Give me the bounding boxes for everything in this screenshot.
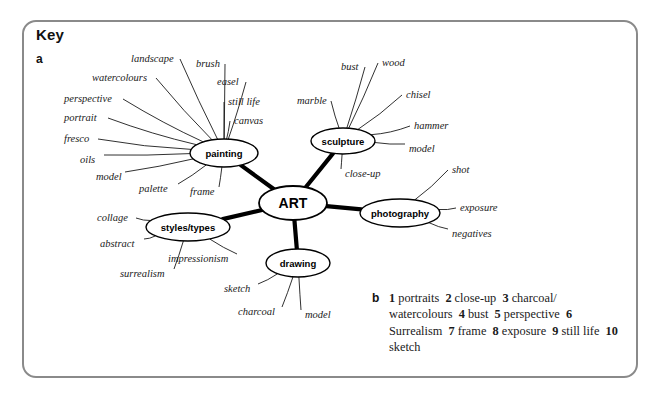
- answer-text: sketch: [389, 340, 420, 354]
- leaf-label: oils: [80, 154, 95, 165]
- leaf-label: exposure: [460, 202, 498, 213]
- leaf-label: shot: [452, 164, 471, 175]
- leaf-label: wood: [382, 57, 406, 68]
- branch-node-label: photography: [371, 208, 430, 219]
- leaf-label: watercolours: [92, 72, 147, 83]
- answer-number: 8: [493, 324, 502, 338]
- leaf-label: fresco: [64, 133, 89, 144]
- leaf-label: negatives: [452, 228, 492, 239]
- leaf-label: brush: [196, 58, 220, 69]
- answer-text: frame: [458, 324, 493, 338]
- answer-number: 10: [606, 324, 618, 338]
- branch-node-label: painting: [206, 148, 243, 159]
- answer-number: 4: [459, 307, 468, 321]
- leaf-label: model: [305, 309, 331, 320]
- answer-text: exposure: [502, 324, 553, 338]
- answer-number: 1: [389, 291, 398, 305]
- leaf-label: chisel: [406, 89, 431, 100]
- answer-text: portraits: [398, 291, 445, 305]
- branch-node-label: styles/types: [161, 222, 215, 233]
- leaf-label: palette: [138, 183, 168, 194]
- answer-text: Surrealism: [389, 324, 448, 338]
- answer-key-list: 1 portraits 2 close-up 3 charcoal/ water…: [389, 290, 622, 355]
- leaf-label: marble: [297, 95, 327, 106]
- answer-text: bust: [468, 307, 495, 321]
- answer-number: 5: [495, 307, 504, 321]
- leaf-label: hammer: [414, 120, 449, 131]
- answer-number: 3: [502, 291, 511, 305]
- leaf-label: sketch: [224, 283, 250, 294]
- branch-node-label: drawing: [280, 258, 317, 269]
- leaf-label: surrealism: [120, 268, 165, 279]
- leaf-label: charcoal: [238, 306, 275, 317]
- answer-number: 9: [552, 324, 561, 338]
- mindmap-key-page: Key a paintingsculpturephotographydrawin…: [0, 0, 660, 396]
- leaf-label: collage: [97, 212, 128, 223]
- leaf-label: easel: [217, 76, 239, 87]
- answer-text: perspective: [504, 307, 566, 321]
- leaf-label: perspective: [63, 93, 112, 104]
- leaf-label: bust: [341, 61, 360, 72]
- answer-number: 7: [448, 324, 457, 338]
- leaf-label: still life: [228, 96, 260, 107]
- leaf-label: abstract: [100, 238, 136, 249]
- center-node-label: ART: [279, 195, 308, 211]
- leaf-label: portrait: [63, 112, 98, 123]
- leaf-label: landscape: [131, 53, 174, 64]
- answer-number: 6: [566, 307, 572, 321]
- branch-node-label: sculpture: [322, 136, 365, 147]
- part-b-label: b: [372, 291, 379, 307]
- answer-text: close-up: [455, 291, 503, 305]
- leaf-label: canvas: [234, 115, 263, 126]
- leaf-label: frame: [190, 186, 215, 197]
- answer-number: 2: [445, 291, 454, 305]
- leaf-label: model: [409, 143, 435, 154]
- leaf-label: model: [96, 171, 122, 182]
- answer-text: still life: [562, 324, 606, 338]
- answer-key-b: b 1 portraits 2 close-up 3 charcoal/ wat…: [372, 290, 622, 355]
- leaf-label: impressionism: [168, 253, 229, 264]
- leaf-label: close-up: [345, 168, 381, 179]
